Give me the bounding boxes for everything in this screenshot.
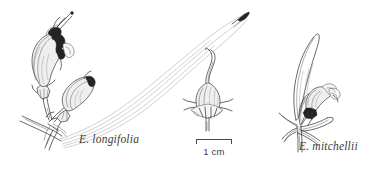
- fruit-style: [206, 48, 215, 84]
- species-label-longifolia: E. longifolia: [79, 133, 139, 145]
- left-lower-calyx: [49, 110, 70, 131]
- scale-bar-caption: 1 cm: [196, 146, 232, 157]
- specimen-center-fruit: [183, 48, 233, 131]
- left-stem: [20, 112, 62, 150]
- botanical-illustration-plate: E. longifolia E. mitchellii 1 cm: [0, 0, 373, 171]
- specimen-right-mitchellii: [279, 34, 340, 152]
- scale-bar: 1 cm: [196, 139, 232, 157]
- fruit-pedicel: [206, 118, 209, 131]
- left-upper-flower-style: [46, 11, 74, 37]
- scale-bar-line: [196, 139, 232, 145]
- specimen-left-longifolia: [20, 11, 95, 150]
- species-label-mitchellii: E. mitchellii: [299, 140, 358, 152]
